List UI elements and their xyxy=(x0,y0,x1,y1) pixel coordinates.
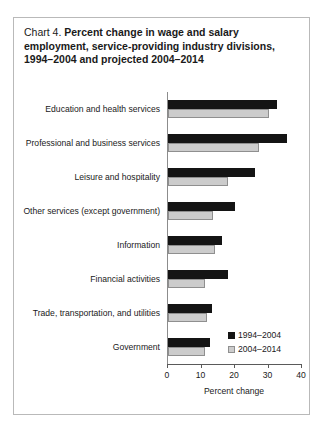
legend-swatch-icon xyxy=(228,332,235,339)
bar-0-5 xyxy=(168,270,228,279)
category-label: Trade, transportation, and utilities xyxy=(16,308,160,319)
bar-1-6 xyxy=(168,313,207,322)
bar-0-3 xyxy=(168,202,235,211)
bar-0-1 xyxy=(168,134,287,143)
chart-title: Chart 4. Percent change in wage and sala… xyxy=(24,26,302,67)
category-label: Professional and business services xyxy=(16,138,160,149)
bars-region xyxy=(168,92,310,364)
x-tick xyxy=(234,364,235,368)
x-tick xyxy=(201,364,202,368)
bar-0-0 xyxy=(168,100,277,109)
x-tick xyxy=(167,364,168,368)
legend-item: 2004–2014 xyxy=(228,343,308,355)
chart-legend: 1994–20042004–2014 xyxy=(228,329,308,357)
legend-label: 1994–2004 xyxy=(238,330,281,340)
legend-swatch-icon xyxy=(228,346,235,353)
legend-item: 1994–2004 xyxy=(228,329,308,341)
bar-1-0 xyxy=(168,109,269,118)
bar-1-5 xyxy=(168,279,205,288)
bar-0-2 xyxy=(168,168,255,177)
chart-panel: Chart 4. Percent change in wage and sala… xyxy=(13,17,310,415)
chart-title-prefix: Chart 4. xyxy=(24,26,61,38)
x-tick-label: 0 xyxy=(152,370,182,380)
category-axis-labels: Education and health servicesProfessiona… xyxy=(16,92,166,364)
category-label: Leisure and hospitality xyxy=(16,172,160,183)
bar-1-4 xyxy=(168,245,215,254)
x-axis-title: Percent change xyxy=(167,386,301,396)
category-label: Government xyxy=(16,342,160,353)
x-tick-label: 30 xyxy=(253,370,283,380)
bar-1-3 xyxy=(168,211,213,220)
category-label: Information xyxy=(16,240,160,251)
bar-0-4 xyxy=(168,236,222,245)
bar-1-1 xyxy=(168,143,259,152)
category-label: Other services (except government) xyxy=(16,206,160,217)
category-label: Financial activities xyxy=(16,274,160,285)
x-tick-label: 40 xyxy=(286,370,310,380)
x-tick-label: 20 xyxy=(219,370,249,380)
chart-title-main: Percent change in wage and salary employ… xyxy=(24,26,275,65)
bar-0-7 xyxy=(168,338,210,347)
category-label: Education and health services xyxy=(16,104,160,115)
x-tick-label: 10 xyxy=(186,370,216,380)
bar-1-7 xyxy=(168,347,205,356)
bar-1-2 xyxy=(168,177,228,186)
legend-label: 2004–2014 xyxy=(238,344,281,354)
bar-0-6 xyxy=(168,304,212,313)
x-tick xyxy=(268,364,269,368)
x-tick xyxy=(301,364,302,368)
